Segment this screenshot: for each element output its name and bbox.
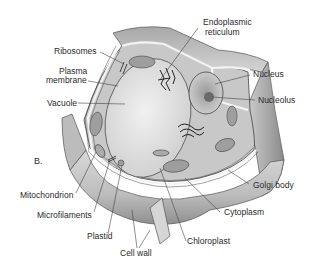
label-plasma-membrane-line2: membrane [46,76,87,85]
label-panel-letter: B. [34,157,43,166]
label-vacuole: Vacuole [47,99,77,108]
label-mitochondrion: Mitochondrion [20,191,73,200]
label-nucleus: Nucleus [253,70,284,79]
label-microfilaments: Microfilaments [37,211,92,220]
label-ribosomes: Ribosomes [54,47,97,56]
label-endoplasmic-reticulum-line1: Endoplasmic [203,18,252,27]
label-endoplasmic-reticulum-line2: reticulum [205,28,239,37]
label-nucleolus: Nucleolus [258,96,295,105]
label-cell-wall: Cell wall [120,249,152,258]
label-chloroplast: Chloroplast [187,237,230,246]
plant-cell-diagram [0,0,312,266]
label-golgi-body: Golgi body [253,181,294,190]
label-plastid: Plastid [87,232,113,241]
label-cytoplasm: Cytoplasm [224,208,264,217]
